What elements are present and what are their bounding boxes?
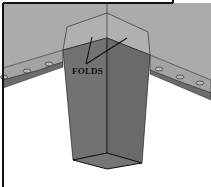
rivet-icon (23, 69, 31, 73)
leg-right-face (107, 38, 150, 163)
folds-label: FOLDS (72, 66, 103, 76)
rivet-icon (155, 67, 163, 71)
rivet-icon (176, 75, 184, 79)
rivet-icon (45, 62, 53, 66)
leg-folds-illustration (0, 0, 211, 187)
rivet-icon (196, 81, 204, 85)
diagram-canvas: FOLDS (0, 0, 211, 187)
